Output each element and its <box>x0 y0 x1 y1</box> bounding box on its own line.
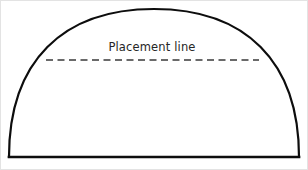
placement-line-label: Placement line <box>108 40 195 54</box>
dome-arc-outline <box>9 9 299 157</box>
dome-placement-line-figure: Placement line <box>1 1 308 170</box>
diagram-canvas: Placement line <box>0 0 308 170</box>
